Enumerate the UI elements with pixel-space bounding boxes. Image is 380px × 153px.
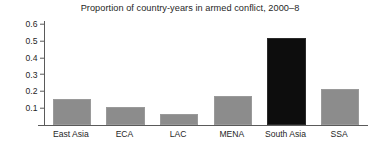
x-axis-label-south-asia: South Asia [259, 129, 313, 139]
y-axis-tick: 0.2 [26, 87, 44, 96]
bar-lac [160, 114, 198, 125]
y-axis-tick-label: 0.1 [26, 104, 38, 113]
y-axis-tick-label: 0.6 [26, 20, 38, 29]
y-axis-tick-mark [40, 24, 44, 25]
y-axis-tick-mark [40, 91, 44, 92]
x-axis-label-eca: ECA [98, 129, 152, 139]
bar-mena [214, 96, 252, 125]
y-axis-tick: 0.4 [26, 54, 44, 63]
bar-south-asia [267, 38, 305, 125]
y-axis-tick: 0.6 [26, 20, 44, 29]
y-axis-tick: 0.1 [26, 104, 44, 113]
y-axis-tick-mark [40, 57, 44, 58]
bar-east-asia [53, 99, 91, 125]
bar-ssa [321, 89, 359, 125]
x-axis-label-ssa: SSA [312, 129, 366, 139]
bar-eca [106, 107, 144, 125]
y-axis-tick: 0.3 [26, 70, 44, 79]
chart-title: Proportion of country-years in armed con… [0, 3, 380, 13]
y-axis-tick-label: 0.5 [26, 37, 38, 46]
y-axis-tick-mark [40, 74, 44, 75]
y-axis-tick-label: 0.3 [26, 70, 38, 79]
x-axis-label-lac: LAC [151, 129, 205, 139]
y-axis-tick-label: 0.4 [26, 54, 38, 63]
plot-area: 0.10.20.30.40.50.6 [44, 21, 366, 125]
y-axis-tick: 0.5 [26, 37, 44, 46]
bar-chart-figure: Proportion of country-years in armed con… [0, 0, 380, 153]
y-axis-tick-mark [40, 108, 44, 109]
x-axis-label-mena: MENA [205, 129, 259, 139]
y-axis-tick-mark [40, 41, 44, 42]
x-axis-label-east-asia: East Asia [44, 129, 98, 139]
y-axis-tick-label: 0.2 [26, 87, 38, 96]
